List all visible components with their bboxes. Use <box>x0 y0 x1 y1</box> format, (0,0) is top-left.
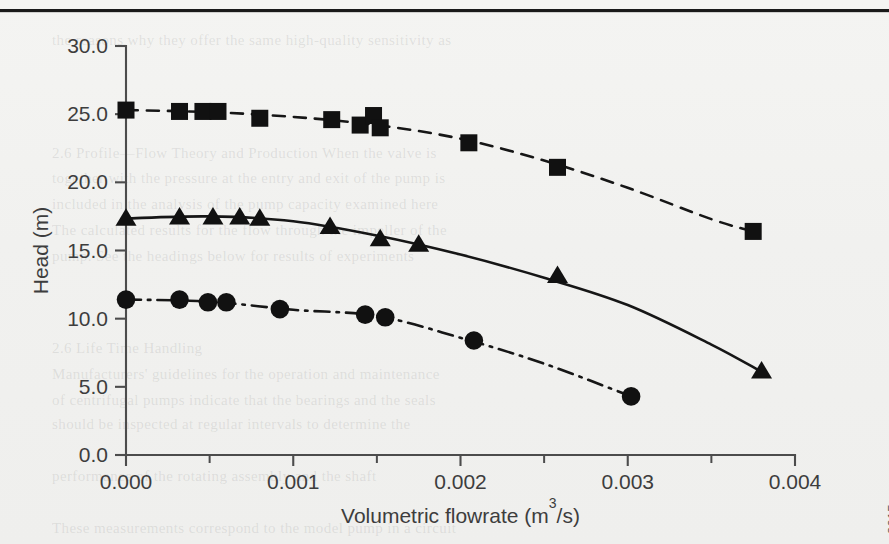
y-tick-label: 25.0 <box>67 102 108 125</box>
data-point-square <box>209 103 226 120</box>
data-point-circle <box>117 290 136 309</box>
data-point-square <box>323 111 340 128</box>
y-tick-label: 10.0 <box>67 307 108 330</box>
data-point-square <box>745 223 762 240</box>
x-tick-label: 0.001 <box>267 470 320 493</box>
data-point-square <box>549 159 566 176</box>
data-point-circle <box>376 308 395 327</box>
data-point-circle <box>622 387 641 406</box>
data-point-square <box>251 110 268 127</box>
data-point-square <box>171 103 188 120</box>
data-point-circle <box>271 300 290 319</box>
copyright-notice: © Cengage Learning 2015 <box>885 504 889 544</box>
axis-labels-group: 0.05.010.015.020.025.030.00.0000.0010.00… <box>29 34 822 527</box>
x-tick-label: 0.003 <box>601 470 654 493</box>
data-point-square <box>460 134 477 151</box>
data-point-circle <box>356 305 375 324</box>
data-point-square <box>194 103 211 120</box>
y-tick-label: 20.0 <box>67 170 108 193</box>
x-tick-label: 0.004 <box>769 470 822 493</box>
x-tick-label: 0.000 <box>100 470 153 493</box>
data-point-triangle <box>229 207 250 225</box>
data-point-circle <box>217 293 236 312</box>
y-axis-title: Head (m) <box>29 207 52 295</box>
data-point-circle <box>170 290 189 309</box>
data-point-square <box>118 102 135 119</box>
series-group <box>116 102 773 406</box>
data-point-triangle <box>547 266 568 284</box>
y-tick-label: 30.0 <box>67 34 108 57</box>
series-lower-curve-circles <box>117 290 641 405</box>
x-axis-title: Volumetric flowrate (m3/s) <box>341 495 580 527</box>
y-tick-label: 0.0 <box>79 443 108 466</box>
series-curve-square <box>126 110 753 231</box>
series-curve-triangle <box>126 216 762 371</box>
figure-root: the reasons why they offer the same high… <box>0 0 889 544</box>
y-tick-label: 15.0 <box>67 239 108 262</box>
y-tick-label: 5.0 <box>79 375 108 398</box>
series-middle-curve-triangles <box>116 207 773 379</box>
data-point-circle <box>465 331 484 350</box>
data-point-square <box>372 119 389 136</box>
data-point-triangle <box>751 361 772 379</box>
x-tick-label: 0.002 <box>434 470 487 493</box>
data-point-circle <box>199 293 218 312</box>
chart-plot-area: 0.05.010.015.020.025.030.00.0000.0010.00… <box>0 0 889 544</box>
